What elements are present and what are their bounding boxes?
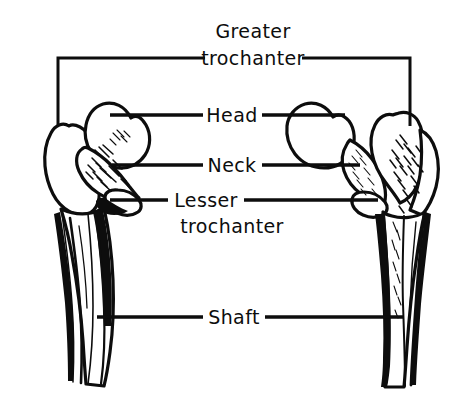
label-shaft: Shaft xyxy=(208,306,260,328)
label-head: Head xyxy=(206,104,257,126)
label-neck: Neck xyxy=(208,154,257,176)
label-greater-trochanter-line1: Greater xyxy=(215,20,290,42)
label-lesser-trochanter-line1: Lesser xyxy=(174,189,238,211)
femur-anatomy-figure: Greater trochanter Head Neck Lesser troc… xyxy=(0,0,463,400)
label-lesser-trochanter-line2: trochanter xyxy=(180,215,284,237)
left-femur-drawing xyxy=(45,103,150,386)
femur-diagram-svg: Greater trochanter Head Neck Lesser troc… xyxy=(0,0,463,400)
right-femur-drawing xyxy=(287,103,438,387)
label-greater-trochanter-line2: trochanter xyxy=(201,47,305,69)
